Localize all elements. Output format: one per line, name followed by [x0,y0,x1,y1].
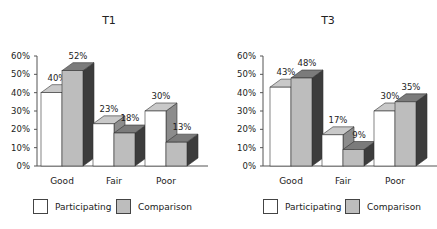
y-tick-label: 60% [237,51,256,61]
y-tick-label: 0% [17,161,31,171]
x-category-label: Fair [335,176,351,186]
data-label: 9% [352,130,366,140]
data-label: 17% [329,115,348,125]
legend-label: Participating [285,202,341,212]
bar-comparison-fair [114,125,146,166]
data-label: 30% [381,91,400,101]
chart-panel-t1: T1 0%10%20%30%40%50%60%40%52%Good23%18%F… [0,0,218,229]
data-label: 43% [277,67,296,77]
legend-item-participating: Participating [263,199,341,214]
y-tick-label: 10% [237,143,256,153]
bar-comparison-poor [166,134,198,166]
y-tick-label: 30% [237,106,256,116]
data-label: 35% [402,82,421,92]
legend-label: Comparison [138,202,192,212]
comparison-swatch [116,199,131,214]
x-category-label: Poor [156,176,176,186]
data-label: 48% [298,58,317,68]
x-category-label: Good [50,176,74,186]
bar-chart-svg: 0%10%20%30%40%50%60%43%48%Good17%9%Fair3… [219,0,437,229]
y-tick-label: 20% [11,124,30,134]
bar-chart-svg: 0%10%20%30%40%50%60%40%52%Good23%18%Fair… [0,0,218,229]
y-tick-label: 40% [11,88,30,98]
chart-legend: Participating Comparison [0,199,218,219]
bar-comparison-good [291,70,323,166]
legend-label: Participating [55,202,111,212]
participating-swatch [263,199,278,214]
data-label: 18% [121,113,140,123]
chart-legend: Participating Comparison [219,199,437,219]
legend-item-comparison: Comparison [116,199,192,214]
x-category-label: Fair [106,176,122,186]
participating-swatch [33,199,48,214]
comparison-swatch [345,199,360,214]
legend-item-participating: Participating [33,199,111,214]
legend-label: Comparison [367,202,421,212]
y-tick-label: 50% [237,69,256,79]
y-tick-label: 60% [11,51,30,61]
data-label: 13% [173,122,192,132]
x-category-label: Good [279,176,303,186]
y-tick-label: 20% [237,124,256,134]
x-category-label: Poor [385,176,405,186]
legend-item-comparison: Comparison [345,199,421,214]
y-tick-label: 10% [11,143,30,153]
data-label: 30% [152,91,171,101]
y-tick-label: 50% [11,69,30,79]
y-tick-label: 30% [11,106,30,116]
y-tick-label: 40% [237,88,256,98]
data-label: 23% [100,104,119,114]
data-label: 52% [69,51,88,61]
y-tick-label: 0% [243,161,257,171]
bar-comparison-poor [395,94,427,166]
bar-comparison-good [62,63,94,166]
chart-panel-t3: T3 0%10%20%30%40%50%60%43%48%Good17%9%Fa… [219,0,437,229]
